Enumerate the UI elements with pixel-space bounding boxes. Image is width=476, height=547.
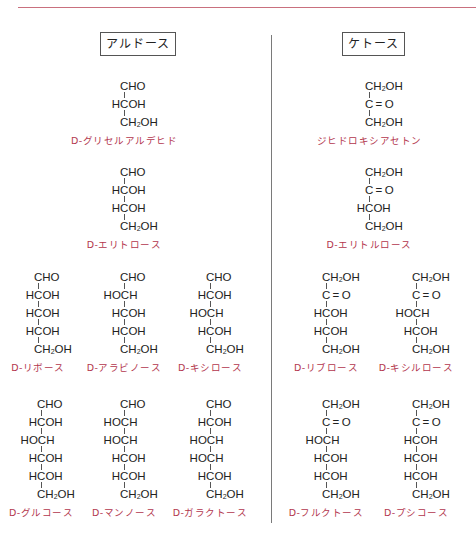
formula-row: HCOH: [314, 452, 348, 464]
ketoses-heading: ケトース: [342, 32, 405, 56]
formula-row: C = O: [365, 184, 394, 196]
formula-row: HOCH: [190, 434, 224, 446]
formula-row: HCOH: [29, 470, 63, 482]
formula-row: HCOH: [112, 184, 146, 196]
formula-row: CH2OH: [322, 343, 360, 355]
formula-row: CH2OH: [34, 343, 72, 355]
formula-row: HCOH: [112, 325, 146, 337]
formula-row: CH2OH: [120, 343, 158, 355]
compound-name: D-マンノース: [92, 505, 156, 519]
aldoses-heading: アルドース: [100, 32, 176, 56]
formula-row: CHO: [37, 398, 63, 410]
formula-row: CHO: [120, 398, 146, 410]
compound-name: D-ガラクトース: [173, 505, 248, 519]
formula-row: CH2OH: [120, 488, 158, 500]
formula-row: C = O: [412, 289, 441, 301]
formula-row: CH2OH: [322, 398, 360, 410]
formula-row: HCOH: [314, 307, 348, 319]
formula-row: HCOH: [112, 202, 146, 214]
formula-row: HCOH: [29, 452, 63, 464]
formula-row: HCOH: [404, 325, 438, 337]
formula-row: CH2OH: [120, 220, 158, 232]
formula-row: HCOH: [112, 307, 146, 319]
formula-row: CH2OH: [322, 488, 360, 500]
formula-row: CHO: [120, 80, 146, 92]
formula-row: HCOH: [404, 470, 438, 482]
formula-row: C = O: [322, 289, 351, 301]
formula-row: HOCH: [104, 289, 138, 301]
compound-name: D-グリセルアルデヒド: [71, 133, 177, 147]
formula-row: CH2OH: [120, 116, 158, 128]
formula-row: HCOH: [26, 289, 60, 301]
formula-row: CH2OH: [365, 80, 403, 92]
formula-row: HCOH: [112, 452, 146, 464]
formula-row: CH2OH: [206, 488, 244, 500]
formula-row: CH2OH: [412, 398, 450, 410]
formula-row: C = O: [412, 416, 441, 428]
formula-row: HCOH: [314, 470, 348, 482]
formula-row: CH2OH: [37, 488, 75, 500]
compound-name: D-リブロース: [294, 360, 358, 374]
formula-row: HCOH: [26, 325, 60, 337]
formula-row: HOCH: [190, 307, 224, 319]
formula-row: CH2OH: [412, 343, 450, 355]
formula-row: HOCH: [190, 452, 224, 464]
formula-row: HCOH: [198, 289, 232, 301]
formula-row: CHO: [34, 271, 60, 283]
formula-row: CH2OH: [412, 271, 450, 283]
formula-row: HOCH: [104, 434, 138, 446]
compound-name: D-キシルロース: [379, 360, 454, 374]
formula-row: C = O: [322, 416, 351, 428]
formula-row: CH2OH: [412, 488, 450, 500]
formula-row: HOCH: [21, 434, 55, 446]
formula-row: HCOH: [357, 202, 391, 214]
formula-row: HCOH: [198, 470, 232, 482]
formula-row: CHO: [120, 166, 146, 178]
formula-row: C = O: [365, 98, 394, 110]
formula-row: HOCH: [306, 434, 340, 446]
compound-name: D-エリトルロース: [326, 237, 411, 251]
formula-row: CH2OH: [365, 166, 403, 178]
compound-name: D-アラビノース: [87, 360, 162, 374]
formula-row: HOCH: [396, 307, 430, 319]
formula-row: HCOH: [404, 452, 438, 464]
formula-row: CH2OH: [365, 116, 403, 128]
formula-row: CHO: [206, 271, 232, 283]
compound-name: D-リボース: [11, 360, 65, 374]
formula-row: HCOH: [198, 325, 232, 337]
compound-name: D-キシロース: [178, 360, 242, 374]
formula-row: CH2OH: [365, 220, 403, 232]
formula-row: HCOH: [26, 307, 60, 319]
formula-row: HOCH: [104, 416, 138, 428]
formula-row: HCOH: [112, 470, 146, 482]
formula-row: HCOH: [112, 98, 146, 110]
formula-row: CHO: [206, 398, 232, 410]
formula-row: HCOH: [404, 434, 438, 446]
top-rule: [18, 7, 476, 8]
formula-row: CH2OH: [206, 343, 244, 355]
column-divider: [271, 35, 272, 523]
formula-row: CHO: [120, 271, 146, 283]
formula-row: HCOH: [29, 416, 63, 428]
compound-name: D-プシコース: [384, 505, 448, 519]
formula-row: HCOH: [314, 325, 348, 337]
formula-row: CH2OH: [322, 271, 360, 283]
compound-name: D-フルクトース: [289, 505, 364, 519]
compound-name: ジヒドロキシアセトン: [317, 133, 422, 147]
formula-row: HCOH: [198, 416, 232, 428]
compound-name: D-エリトロース: [87, 237, 162, 251]
compound-name: D-グルコース: [9, 505, 73, 519]
